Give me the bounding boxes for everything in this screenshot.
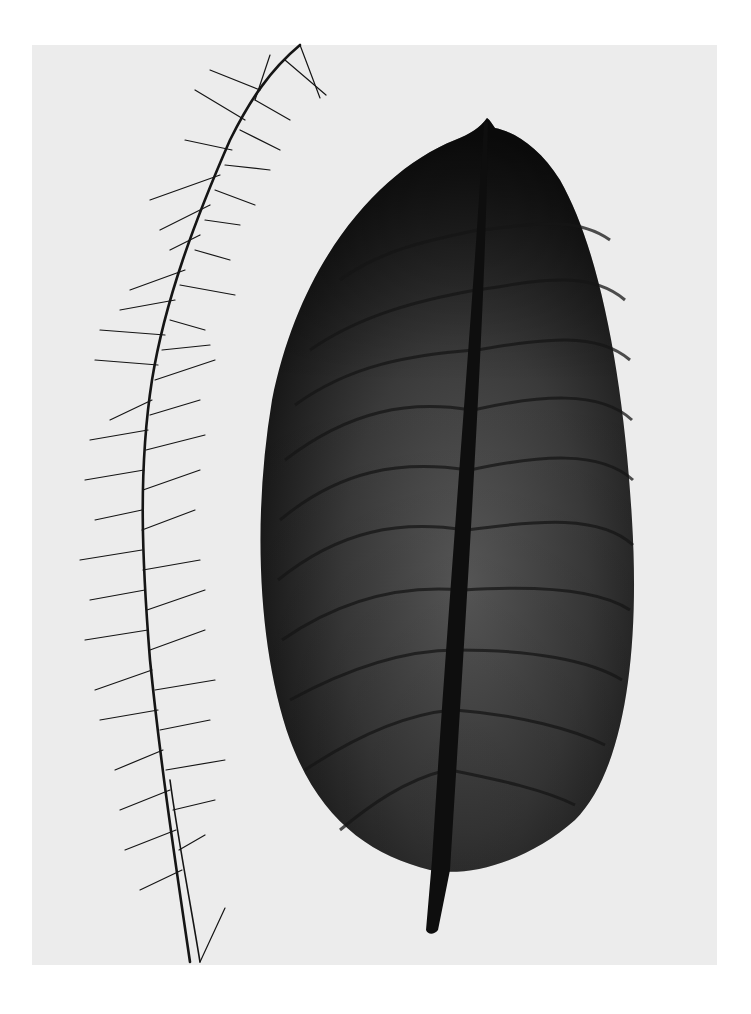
leaf: [260, 118, 634, 934]
botanical-photo: [0, 0, 751, 1014]
